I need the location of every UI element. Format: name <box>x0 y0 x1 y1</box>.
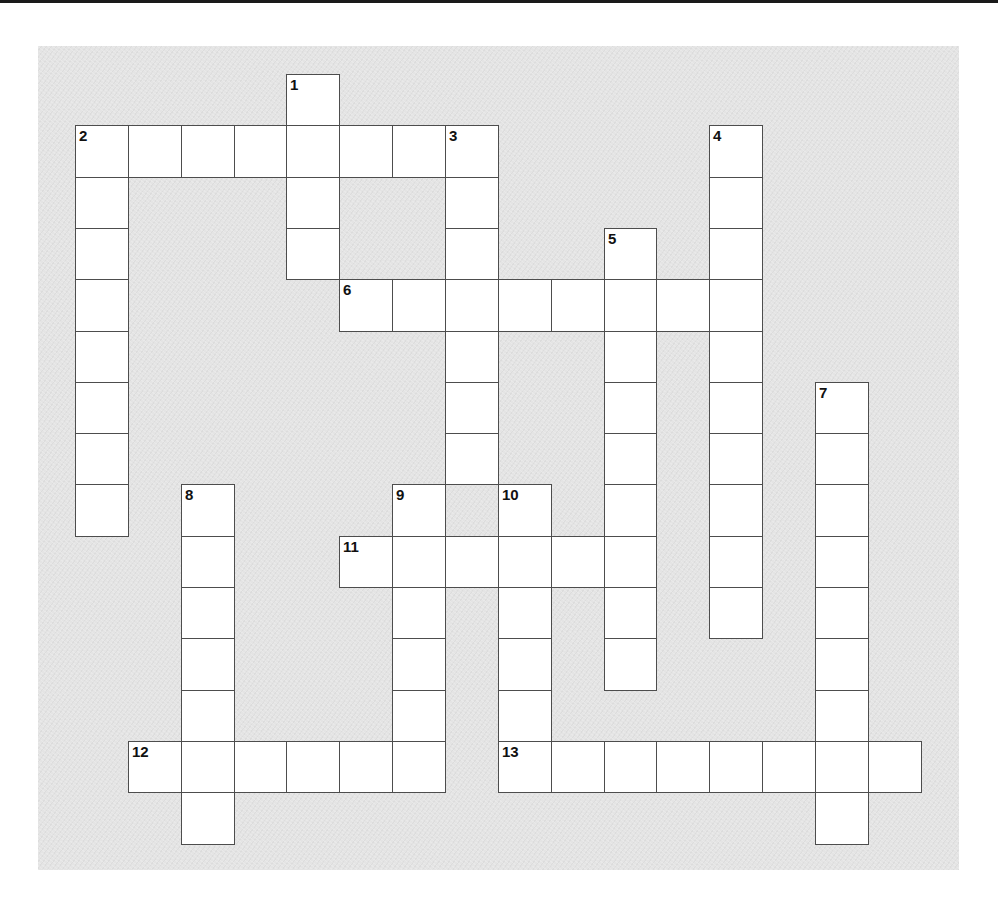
crossword-cell[interactable]: 12 <box>128 741 182 793</box>
crossword-cell[interactable] <box>445 279 499 332</box>
crossword-cell[interactable] <box>75 484 129 537</box>
crossword-cell[interactable] <box>181 638 235 691</box>
crossword-cell[interactable] <box>498 587 552 639</box>
crossword-cell[interactable] <box>709 279 763 332</box>
crossword-cell[interactable] <box>445 433 499 485</box>
crossword-cell[interactable] <box>128 125 182 178</box>
crossword-cell[interactable] <box>392 279 446 332</box>
crossword-cell[interactable] <box>815 638 869 691</box>
crossword-cell[interactable]: 7 <box>815 382 869 434</box>
crossword-cell[interactable] <box>551 279 605 332</box>
crossword-cell[interactable] <box>815 433 869 485</box>
crossword-cell[interactable] <box>445 228 499 280</box>
clue-number: 13 <box>502 744 519 759</box>
crossword-cell[interactable] <box>286 228 340 280</box>
crossword-cell[interactable] <box>709 382 763 434</box>
crossword-cell[interactable] <box>75 228 129 280</box>
crossword-cell[interactable] <box>709 433 763 485</box>
crossword-cell[interactable] <box>604 536 657 588</box>
crossword-cell[interactable]: 6 <box>339 279 393 332</box>
crossword-cell[interactable] <box>604 279 657 332</box>
crossword-cell[interactable] <box>815 587 869 639</box>
crossword-cell[interactable]: 4 <box>709 125 763 178</box>
crossword-cell[interactable]: 11 <box>339 536 393 588</box>
crossword-cell[interactable] <box>75 177 129 229</box>
crossword-cell[interactable]: 2 <box>75 125 129 178</box>
crossword-cell[interactable] <box>392 741 446 793</box>
crossword-cell[interactable] <box>709 536 763 588</box>
crossword-cell[interactable] <box>181 792 235 845</box>
crossword-cell[interactable] <box>75 279 129 332</box>
crossword-cell[interactable] <box>181 125 235 178</box>
clue-number: 7 <box>819 385 827 400</box>
crossword-cell[interactable] <box>656 741 710 793</box>
crossword-cell[interactable] <box>445 331 499 383</box>
crossword-cell[interactable] <box>339 741 393 793</box>
crossword-cell[interactable] <box>445 177 499 229</box>
crossword-cell[interactable] <box>392 638 446 691</box>
crossword-cell[interactable] <box>656 279 710 332</box>
crossword-cell[interactable] <box>604 638 657 691</box>
crossword-cell[interactable] <box>762 741 816 793</box>
crossword-cell[interactable] <box>75 382 129 434</box>
clue-number: 4 <box>713 128 721 143</box>
crossword-cell[interactable] <box>551 741 605 793</box>
crossword-cell[interactable] <box>868 741 922 793</box>
crossword-cell[interactable] <box>286 741 340 793</box>
crossword-cell[interactable] <box>498 279 552 332</box>
crossword-cell[interactable] <box>498 536 552 588</box>
crossword-cell[interactable]: 5 <box>604 228 657 280</box>
crossword-cell[interactable] <box>181 690 235 742</box>
crossword-cell[interactable] <box>604 433 657 485</box>
crossword-cell[interactable] <box>286 177 340 229</box>
crossword-cell[interactable]: 1 <box>286 74 340 126</box>
crossword-cell[interactable] <box>234 125 287 178</box>
crossword-cell[interactable] <box>815 690 869 742</box>
crossword-cell[interactable] <box>815 741 869 793</box>
crossword-cell[interactable] <box>445 536 499 588</box>
crossword-cell[interactable] <box>181 587 235 639</box>
crossword-cell[interactable] <box>392 125 446 178</box>
crossword-grid: 12345678910131112 <box>0 0 998 906</box>
clue-number: 9 <box>396 487 404 502</box>
crossword-cell[interactable] <box>286 125 340 178</box>
crossword-cell[interactable] <box>604 331 657 383</box>
crossword-cell[interactable]: 9 <box>392 484 446 537</box>
crossword-cell[interactable] <box>181 741 235 793</box>
crossword-cell[interactable] <box>604 741 657 793</box>
crossword-cell[interactable] <box>392 587 446 639</box>
clue-number: 12 <box>132 744 149 759</box>
crossword-cell[interactable] <box>709 228 763 280</box>
crossword-cell[interactable] <box>815 484 869 537</box>
crossword-cell[interactable] <box>815 792 869 845</box>
crossword-cell[interactable] <box>445 382 499 434</box>
crossword-cell[interactable] <box>709 741 763 793</box>
crossword-cell[interactable]: 3 <box>445 125 499 178</box>
crossword-cell[interactable]: 13 <box>498 741 552 793</box>
crossword-cell[interactable] <box>604 587 657 639</box>
crossword-cell[interactable] <box>234 741 287 793</box>
crossword-cell[interactable] <box>181 536 235 588</box>
crossword-cell[interactable] <box>604 484 657 537</box>
clue-number: 6 <box>343 282 351 297</box>
crossword-cell[interactable] <box>709 331 763 383</box>
crossword-cell[interactable] <box>815 536 869 588</box>
crossword-cell[interactable]: 10 <box>498 484 552 537</box>
crossword-cell[interactable]: 8 <box>181 484 235 537</box>
crossword-cell[interactable] <box>709 177 763 229</box>
clue-number: 8 <box>185 487 193 502</box>
crossword-cell[interactable] <box>392 690 446 742</box>
clue-number: 3 <box>449 128 457 143</box>
crossword-cell[interactable] <box>709 484 763 537</box>
crossword-cell[interactable] <box>498 638 552 691</box>
crossword-cell[interactable] <box>339 125 393 178</box>
crossword-cell[interactable] <box>551 536 605 588</box>
crossword-cell[interactable] <box>604 382 657 434</box>
crossword-cell[interactable] <box>75 331 129 383</box>
crossword-cell[interactable] <box>75 433 129 485</box>
clue-number: 5 <box>608 231 616 246</box>
clue-number: 1 <box>290 77 298 92</box>
crossword-cell[interactable] <box>498 690 552 742</box>
crossword-cell[interactable] <box>709 587 763 639</box>
crossword-cell[interactable] <box>392 536 446 588</box>
